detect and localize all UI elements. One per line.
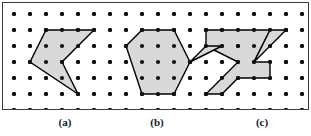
lattice-dot [108,44,112,48]
lattice-dot [156,60,160,64]
lattice-dot [172,92,176,96]
lattice-dot [172,76,176,80]
lattice-dot [124,60,128,64]
lattice-dot [204,12,208,16]
lattice-dot [12,76,16,80]
lattice-dot [92,76,96,80]
figure-label-a: (a) [45,116,85,128]
lattice-dot [108,76,112,80]
lattice-dot [92,44,96,48]
lattice-dot [252,12,256,16]
lattice-dot [156,76,160,80]
lattice-dot [236,44,240,48]
lattice-dot [284,76,288,80]
lattice-dot [172,44,176,48]
lattice-dot [188,28,192,32]
lattice-dot [44,60,48,64]
lattice-dot [236,28,240,32]
lattice-dot [268,60,272,64]
lattice-dot [236,92,240,96]
lattice-dot [300,92,304,96]
lattice-dot [60,60,64,64]
lattice-dot [28,44,32,48]
lattice-dot [284,92,288,96]
lattice-dot [172,28,176,32]
lattice-dot [172,60,176,64]
lattice-dot [156,44,160,48]
lattice-dot [188,92,192,96]
lattice-dot [92,12,96,16]
lattice-dot [92,92,96,96]
lattice-dot [140,28,144,32]
lattice-dot [28,28,32,32]
lattice-dot [124,92,128,96]
lattice-dot [60,44,64,48]
lattice-dot [92,60,96,64]
lattice-dot [12,12,16,16]
lattice-dot [156,92,160,96]
lattice-dot [140,44,144,48]
lattice-dot [108,92,112,96]
lattice-grid-panel [2,2,309,110]
lattice-dot [300,60,304,64]
lattice-dot [92,28,96,32]
lattice-dot [60,92,64,96]
lattice-dot [12,44,16,48]
lattice-dot [76,44,80,48]
lattice-dot [28,76,32,80]
lattice-dot [220,12,224,16]
lattice-dot [188,44,192,48]
lattice-dot [284,12,288,16]
lattice-dot [204,76,208,80]
lattice-dot [76,92,80,96]
lattice-dot [252,60,256,64]
lattice-dot [268,12,272,16]
lattice-dot [300,12,304,16]
lattice-dot [220,76,224,80]
polygon-figure: (a) (b) (c) [0,0,311,136]
lattice-dot [124,44,128,48]
lattice-dot [172,12,176,16]
lattice-dot [204,92,208,96]
lattice-dot [140,60,144,64]
lattice-dot [220,92,224,96]
lattice-dot [220,44,224,48]
lattice-dot [268,92,272,96]
lattice-dot [156,12,160,16]
lattice-dot [44,92,48,96]
lattice-dot [28,12,32,16]
lattice-dot [140,76,144,80]
polygon-layer [3,3,309,110]
lattice-dot [204,44,208,48]
lattice-dot [252,28,256,32]
lattice-dot [44,28,48,32]
lattice-dot [220,28,224,32]
lattice-dot [108,12,112,16]
lattice-dot [284,60,288,64]
lattice-dot [108,60,112,64]
lattice-dot [204,28,208,32]
lattice-dot [60,28,64,32]
lattice-dot [300,28,304,32]
lattice-dot [188,12,192,16]
lattice-dot [300,44,304,48]
lattice-dot [140,12,144,16]
lattice-dot [204,60,208,64]
lattice-dot [28,92,32,96]
lattice-dot [124,12,128,16]
lattice-dot [12,92,16,96]
lattice-dot [44,44,48,48]
polygon-c-part-2 [190,46,222,62]
figure-labels: (a) (b) (c) [0,110,311,136]
lattice-dot [252,44,256,48]
lattice-dot [60,12,64,16]
lattice-dot [28,60,32,64]
lattice-dot [76,76,80,80]
lattice-dot [268,44,272,48]
figure-label-b: (b) [137,116,177,128]
lattice-dot [124,76,128,80]
lattice-dot [284,28,288,32]
lattice-dot [76,60,80,64]
lattice-dot [300,76,304,80]
lattice-dot [12,60,16,64]
